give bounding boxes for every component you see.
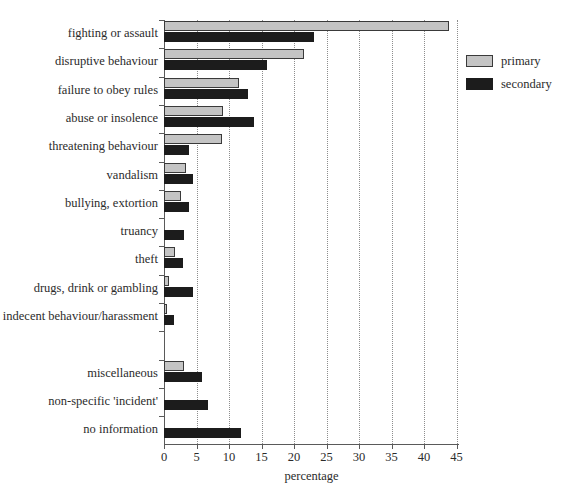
chart-row: drugs, drink or gambling [0,275,563,303]
category-label: disruptive behaviour [0,54,158,69]
bar-primary [164,361,184,371]
legend-swatch-secondary-icon [466,78,493,90]
x-tick-label: 5 [193,450,199,465]
x-tick-label: 20 [288,450,301,465]
category-label: truancy [0,224,158,239]
chart-row: theft [0,246,563,274]
bar-primary [164,276,169,286]
legend-label-secondary: secondary [501,77,552,92]
bar-secondary [164,258,183,268]
bar-secondary [164,372,202,382]
category-tick [159,218,164,219]
x-tick-label: 45 [450,450,463,465]
bar-primary [164,163,186,173]
chart-row: threatening behaviour [0,133,563,161]
category-label: no information [0,422,158,437]
legend-entry-primary: primary [466,52,561,70]
x-tick-label: 0 [161,450,167,465]
bar-primary [164,247,175,257]
category-label: threatening behaviour [0,139,158,154]
chart-row: fighting or assault [0,20,563,48]
chart-row: indecent behaviour/harassment [0,303,563,331]
legend-entry-secondary: secondary [466,75,561,93]
legend: primary secondary [466,52,561,98]
x-tick-label: 10 [223,450,236,465]
chart-row: miscellaneous [0,360,563,388]
x-tick-label: 25 [320,450,333,465]
x-axis-title: percentage [164,469,459,484]
category-label: fighting or assault [0,26,158,41]
chart-row: no information [0,416,563,444]
bar-secondary [164,89,248,99]
bar-secondary [164,230,184,240]
chart-row [0,331,563,359]
chart-row: vandalism [0,162,563,190]
category-label: abuse or insolence [0,111,158,126]
legend-swatch-primary-icon [466,55,493,67]
bar-primary [164,106,223,116]
chart-row: non-specific 'incident' [0,388,563,416]
bar-secondary [164,428,241,438]
bar-secondary [164,174,193,184]
category-label: non-specific 'incident' [0,394,158,409]
category-tick [159,388,164,389]
category-label: theft [0,252,158,267]
bar-secondary [164,400,208,410]
x-tick-label: 15 [255,450,268,465]
category-label: bullying, extortion [0,196,158,211]
bar-secondary [164,32,314,42]
bar-primary [164,49,304,59]
bar-secondary [164,202,189,212]
bar-secondary [164,287,193,297]
bar-secondary [164,117,254,127]
bar-secondary [164,60,267,70]
category-tick [159,416,164,417]
bar-primary [164,78,239,88]
bar-primary [164,134,222,144]
category-label: indecent behaviour/harassment [0,309,158,324]
category-label: vandalism [0,168,158,183]
chart-row: abuse or insolence [0,105,563,133]
category-tick [159,331,164,332]
x-tick-label: 35 [385,450,398,465]
chart-row: bullying, extortion [0,190,563,218]
x-tick-label: 40 [418,450,431,465]
chart-row: truancy [0,218,563,246]
x-tick-label: 30 [353,450,366,465]
bar-primary [164,21,449,31]
category-label: failure to obey rules [0,83,158,98]
category-label: drugs, drink or gambling [0,281,158,296]
bar-secondary [164,145,189,155]
category-label: miscellaneous [0,366,158,381]
bar-primary [164,304,167,314]
legend-label-primary: primary [501,54,541,69]
bar-chart: 051015202530354045 fighting or assaultdi… [0,0,563,492]
bar-primary [164,191,181,201]
bar-secondary [164,315,174,325]
